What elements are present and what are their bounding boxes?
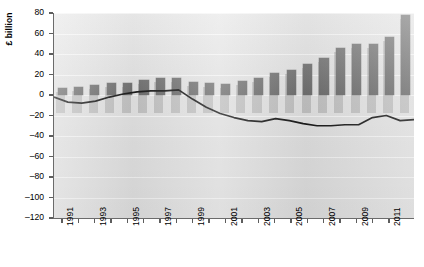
- x-axis-label: 1999: [196, 207, 206, 226]
- x-axis-label: 2005: [294, 207, 304, 226]
- x-axis-tick: [241, 219, 242, 223]
- trend-line: [54, 90, 414, 126]
- x-axis-tick: [159, 219, 160, 223]
- x-axis-label: 2003: [262, 207, 272, 226]
- y-axis-tick: [49, 135, 53, 136]
- x-axis-label: 2001: [229, 207, 239, 226]
- chart-container: £ billion 806040200–20–40–60–80–100–1201…: [0, 0, 424, 267]
- y-axis-label: 40: [10, 49, 44, 58]
- y-axis-label: 0: [10, 90, 44, 99]
- line-series: [54, 13, 414, 218]
- x-axis-tick: [339, 219, 340, 223]
- x-axis-tick: [356, 219, 357, 223]
- x-axis-label: 1991: [65, 207, 75, 226]
- y-axis-tick: [49, 33, 53, 34]
- y-axis-tick: [49, 217, 53, 218]
- y-axis-label: –100: [10, 193, 44, 202]
- x-axis-label: 2007: [327, 207, 337, 226]
- y-axis-tick: [49, 197, 53, 198]
- y-axis-tick: [49, 53, 53, 54]
- y-axis-label: 20: [10, 70, 44, 79]
- x-axis-label: 2011: [392, 208, 402, 226]
- x-axis-tick: [61, 219, 62, 223]
- x-axis-tick: [208, 219, 209, 223]
- x-axis-tick: [143, 219, 144, 223]
- x-axis-tick: [110, 219, 111, 223]
- y-axis-label: –20: [10, 111, 44, 120]
- plot-area: [53, 13, 414, 219]
- x-axis-label: 2009: [360, 207, 370, 226]
- x-axis-tick: [323, 219, 324, 223]
- x-axis-tick: [192, 219, 193, 223]
- y-axis-label: 80: [10, 8, 44, 17]
- y-axis-tick: [49, 12, 53, 13]
- y-axis-label: 60: [10, 29, 44, 38]
- x-axis-tick: [225, 219, 226, 223]
- x-axis-tick: [176, 219, 177, 223]
- x-axis-label: 1993: [98, 207, 108, 226]
- x-axis-tick: [258, 219, 259, 223]
- y-axis-tick: [49, 176, 53, 177]
- x-axis-tick: [274, 219, 275, 223]
- y-axis-tick: [49, 156, 53, 157]
- x-axis-label: 1995: [131, 207, 141, 226]
- y-axis-tick: [49, 74, 53, 75]
- y-axis-tick: [49, 94, 53, 95]
- y-axis-label: –80: [10, 172, 44, 181]
- x-axis-tick: [388, 219, 389, 223]
- x-axis-tick: [94, 219, 95, 223]
- x-axis-tick: [307, 219, 308, 223]
- x-axis-tick: [78, 219, 79, 223]
- y-axis-label: –120: [10, 213, 44, 222]
- y-axis-label: –60: [10, 152, 44, 161]
- x-axis-tick: [372, 219, 373, 223]
- y-axis-tick: [49, 115, 53, 116]
- y-axis-label: –40: [10, 131, 44, 140]
- x-axis-tick: [127, 219, 128, 223]
- x-axis-tick: [290, 219, 291, 223]
- x-axis-label: 1997: [163, 207, 173, 226]
